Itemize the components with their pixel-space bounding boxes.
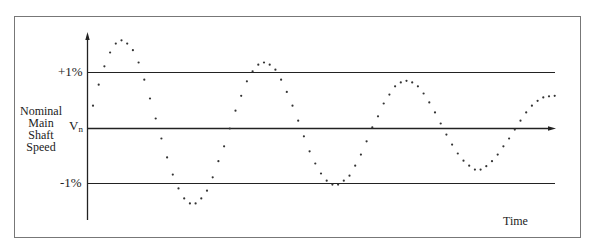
speed-data-points [92, 39, 556, 204]
data-point [172, 174, 174, 176]
data-point [388, 94, 390, 96]
data-point [229, 127, 231, 129]
data-point [98, 84, 100, 86]
data-point [423, 92, 425, 94]
data-point [377, 115, 379, 117]
data-point [360, 154, 362, 156]
y-axis-arrow-icon [85, 32, 89, 40]
data-point [246, 80, 248, 82]
data-point [183, 197, 185, 199]
data-point [217, 160, 219, 162]
data-point [417, 85, 419, 87]
data-point [257, 64, 259, 66]
data-point [149, 97, 151, 99]
data-point [348, 175, 350, 177]
data-point [120, 39, 122, 41]
data-point [195, 202, 197, 204]
data-point [537, 100, 539, 102]
time-axis-arrow-icon [548, 126, 556, 130]
data-point [383, 102, 385, 104]
data-point [155, 117, 157, 119]
data-point [474, 169, 476, 171]
data-point [451, 144, 453, 146]
data-point [234, 110, 236, 112]
data-point [206, 190, 208, 192]
data-point [445, 134, 447, 136]
data-point [269, 64, 271, 66]
nominal-speed-label: Vn [69, 120, 83, 135]
plus-one-percent-label: +1% [58, 66, 83, 78]
data-point [405, 80, 407, 82]
data-point [343, 180, 345, 182]
data-point [434, 111, 436, 113]
data-point [126, 43, 128, 45]
data-point [109, 51, 111, 53]
data-point [508, 137, 510, 139]
plot-area [0, 0, 597, 250]
data-point [337, 184, 339, 186]
data-point [326, 180, 328, 182]
data-point [320, 172, 322, 174]
data-point [303, 135, 305, 137]
data-point [291, 105, 293, 107]
data-point [309, 150, 311, 152]
data-point [457, 152, 459, 154]
data-point [531, 105, 533, 107]
data-point [411, 81, 413, 83]
data-point [480, 169, 482, 171]
y-axis-label-line: Speed [16, 141, 66, 153]
data-point [115, 43, 117, 45]
data-point [103, 65, 105, 67]
data-point [132, 49, 134, 51]
data-point [525, 111, 527, 113]
data-point [223, 145, 225, 147]
data-point [371, 126, 373, 128]
data-point [400, 81, 402, 83]
data-point [280, 79, 282, 81]
data-point [189, 202, 191, 204]
data-point [468, 165, 470, 167]
data-point [554, 95, 556, 97]
data-point [497, 154, 499, 156]
data-point [274, 69, 276, 71]
vn-subscript: n [78, 124, 83, 134]
data-point [138, 61, 140, 63]
data-point [519, 120, 521, 122]
data-point [462, 160, 464, 162]
minus-one-percent-label: -1% [60, 177, 82, 189]
data-point [166, 156, 168, 158]
data-point [314, 162, 316, 164]
data-point [485, 165, 487, 167]
data-point [502, 145, 504, 147]
data-point [331, 184, 333, 186]
data-point [200, 197, 202, 199]
data-point [286, 91, 288, 93]
data-point [92, 105, 94, 107]
data-point [514, 129, 516, 131]
data-point [160, 137, 162, 139]
data-point [177, 187, 179, 189]
data-point [354, 165, 356, 167]
data-point [428, 101, 430, 103]
x-axis-label: Time [503, 215, 528, 227]
data-point [252, 70, 254, 72]
data-point [394, 85, 396, 87]
y-axis-label: Nominal Main Shaft Speed [16, 105, 66, 153]
data-point [143, 79, 145, 81]
data-point [263, 61, 265, 63]
data-point [240, 95, 242, 97]
data-point [542, 96, 544, 98]
vn-symbol: V [69, 118, 78, 133]
data-point [548, 95, 550, 97]
data-point [491, 160, 493, 162]
data-point [366, 140, 368, 142]
data-point [212, 176, 214, 178]
data-point [297, 120, 299, 122]
data-point [440, 122, 442, 124]
